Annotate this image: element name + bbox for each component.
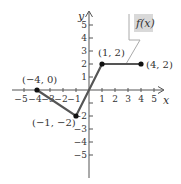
- point-neg4-0: [34, 87, 39, 92]
- point-4-2: [138, 61, 143, 66]
- point-1-2: [99, 61, 104, 66]
- function-callout: f(x): [126, 14, 155, 64]
- x-tick-label: −4: [28, 94, 42, 104]
- x-tick-label: 2: [112, 94, 118, 104]
- y-tick-label: 2: [81, 59, 87, 69]
- y-axis-label: y: [77, 10, 85, 23]
- x-axis-label: x: [163, 94, 170, 107]
- x-tick-label: −5: [14, 94, 28, 104]
- x-tick-label: 1: [99, 94, 105, 104]
- y-tick-label: 4: [81, 33, 87, 43]
- point-label: (−4, 0): [22, 74, 57, 85]
- x-tick-label: −1: [67, 94, 80, 104]
- function-graph: −5 −4 −3 −2 −1 1 2 3 4 5 5 4 3 2 1 −2 −3…: [0, 0, 181, 184]
- y-tick-label: −3: [74, 124, 88, 134]
- x-tick-label: 5: [151, 94, 157, 104]
- y-tick-label: 3: [81, 46, 87, 56]
- y-tick-label: −4: [74, 137, 88, 147]
- x-tick-label: 3: [125, 94, 131, 104]
- point-label: (1, 2): [98, 47, 125, 58]
- y-tick-label: 1: [81, 72, 87, 82]
- point-label: (4, 2): [146, 59, 173, 70]
- x-tick-label: 4: [138, 94, 144, 104]
- function-label: f(x): [135, 17, 155, 30]
- y-tick-label: −5: [74, 150, 88, 160]
- point-label: (−1, −2): [32, 117, 76, 128]
